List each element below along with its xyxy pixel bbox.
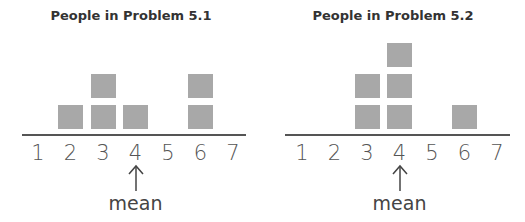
chart-title: People in Problem 5.2 <box>262 8 524 23</box>
person-square <box>355 105 380 129</box>
chart-problem-5-2: People in Problem 5.2 1234567mean <box>262 0 524 222</box>
tick-label: 4 <box>388 141 412 165</box>
number-line <box>285 134 510 136</box>
tick-label: 2 <box>323 141 347 165</box>
tick-label: 6 <box>453 141 477 165</box>
tick-label: 7 <box>221 141 245 165</box>
number-line <box>22 134 246 136</box>
tick-label: 1 <box>290 141 314 165</box>
person-square <box>58 105 83 129</box>
person-square <box>91 74 116 98</box>
chart-title: People in Problem 5.1 <box>0 8 262 23</box>
person-square <box>355 74 380 98</box>
tick-label: 2 <box>59 141 83 165</box>
arrow-up-icon <box>390 164 410 192</box>
person-square <box>452 105 477 129</box>
tick-label: 3 <box>91 141 115 165</box>
tick-label: 1 <box>26 141 50 165</box>
tick-label: 5 <box>420 141 444 165</box>
tick-label: 3 <box>355 141 379 165</box>
mean-label: mean <box>370 192 430 214</box>
tick-label: 4 <box>124 141 148 165</box>
person-square <box>188 105 213 129</box>
person-square <box>123 105 148 129</box>
tick-label: 7 <box>485 141 509 165</box>
tick-label: 5 <box>156 141 180 165</box>
chart-problem-5-1: People in Problem 5.1 1234567mean <box>0 0 262 222</box>
mean-label: mean <box>106 192 166 214</box>
person-square <box>387 74 412 98</box>
person-square <box>91 105 116 129</box>
person-square <box>387 105 412 129</box>
person-square <box>188 74 213 98</box>
person-square <box>387 43 412 67</box>
arrow-up-icon <box>126 164 146 192</box>
tick-label: 6 <box>189 141 213 165</box>
